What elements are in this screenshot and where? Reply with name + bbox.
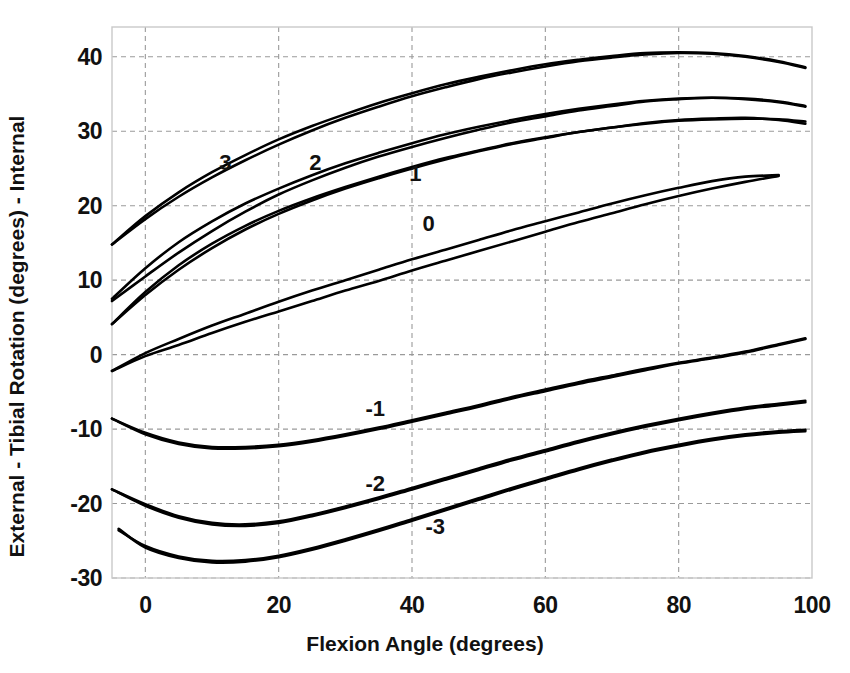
curve-label-0: 0 <box>423 211 435 237</box>
curve-label--1: -1 <box>366 396 386 422</box>
x-tick-label: 80 <box>666 592 691 619</box>
y-tick-label: 0 <box>40 341 102 368</box>
curve--1b <box>112 339 805 449</box>
y-tick-label: -20 <box>40 490 102 517</box>
curve-label-1: 1 <box>409 161 421 187</box>
y-tick-label: 20 <box>40 192 102 219</box>
curve-1 <box>112 119 805 325</box>
chart-figure: -30-20-10010203040 020406080100 3210-1-2… <box>0 0 850 673</box>
curve-1b <box>112 118 805 324</box>
y-tick-label: 30 <box>40 118 102 145</box>
curve-2b <box>112 98 805 301</box>
curve-3 <box>112 52 805 244</box>
curve--3b <box>119 431 806 562</box>
x-tick-label: 60 <box>533 592 558 619</box>
curve-label-3: 3 <box>219 150 231 176</box>
x-tick-label: 0 <box>139 592 151 619</box>
x-axis-title: Flexion Angle (degrees) <box>0 632 850 656</box>
y-tick-label: -10 <box>40 416 102 443</box>
x-tick-label: 100 <box>794 592 831 619</box>
curve-label--2: -2 <box>366 471 386 497</box>
y-tick-label: 10 <box>40 267 102 294</box>
x-tick-label: 40 <box>400 592 425 619</box>
y-tick-label: -30 <box>40 565 102 592</box>
curve-label-2: 2 <box>309 150 321 176</box>
plot-frame <box>112 27 812 578</box>
curve-2 <box>112 98 805 299</box>
grid-lines <box>112 27 812 578</box>
plot-canvas <box>0 0 850 673</box>
y-axis-title: External - Tibial Rotation (degrees) - I… <box>0 0 34 673</box>
data-curves <box>112 52 805 562</box>
x-tick-label: 20 <box>266 592 291 619</box>
y-tick-label: 40 <box>40 43 102 70</box>
curve-label--3: -3 <box>426 514 446 540</box>
